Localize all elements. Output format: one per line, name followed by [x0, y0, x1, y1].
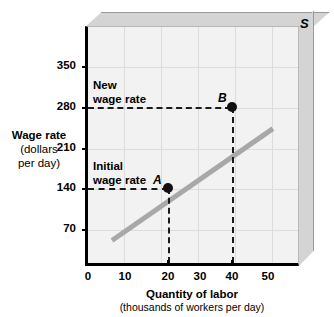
x-tick-mark — [167, 260, 169, 266]
y-tick-mark — [82, 229, 88, 231]
gridline-vertical — [272, 27, 273, 263]
guide-initial-wage-horizontal — [88, 188, 168, 190]
plot-area — [85, 26, 299, 266]
annotation-new-wage-rate: New wage rate — [93, 78, 146, 106]
annotation-initial-wage-line1: Initial — [93, 159, 146, 173]
x-tick-label-text: 0 — [68, 270, 108, 282]
x-tick-label: 50 — [248, 270, 288, 282]
y-tick-label-text: 280 — [36, 100, 76, 112]
x-tick-label-text: 10 — [105, 270, 145, 282]
y-tick-label: 140 — [36, 181, 76, 195]
box-top-face — [85, 12, 330, 27]
annotation-initial-wage-line2: wage rate — [93, 173, 146, 187]
y-tick-label: 350 — [36, 59, 76, 73]
data-point-b-label: B — [218, 91, 227, 105]
y-axis-title-line2: (dollars — [2, 142, 76, 156]
annotation-initial-wage-rate: Initial wage rate — [93, 159, 146, 187]
guide-quantity-40-vertical — [232, 107, 234, 263]
x-tick-label-text: 40 — [212, 270, 252, 282]
y-tick-mark — [82, 188, 88, 190]
x-tick-label-text: 50 — [248, 270, 288, 282]
x-tick-label: 10 — [105, 270, 145, 282]
y-axis-title: Wage rate (dollars per day) — [2, 128, 76, 170]
x-tick-label: 40 — [212, 270, 252, 282]
guide-quantity-20-vertical — [168, 188, 170, 263]
box-right-face — [299, 10, 314, 266]
data-point-a-label: A — [153, 173, 162, 187]
gridline-vertical — [161, 27, 162, 263]
x-tick-label: 0 — [68, 270, 108, 282]
y-tick-label-text: 350 — [36, 59, 76, 71]
y-tick-mark — [82, 66, 88, 68]
x-axis-title: Quantity of labor (thousands of workers … — [85, 288, 299, 314]
y-tick-label-text: 70 — [36, 222, 76, 234]
y-tick-label: 70 — [36, 222, 76, 236]
gridline-vertical — [198, 27, 199, 263]
gridline-horizontal — [88, 67, 298, 68]
data-point-a — [163, 183, 173, 193]
y-axis-title-line3: per day) — [2, 156, 76, 170]
y-tick-label-text: 140 — [36, 181, 76, 193]
x-axis-title-line2: (thousands of workers per day) — [85, 301, 299, 314]
data-point-b — [227, 102, 237, 112]
curve-label-s: S — [300, 16, 309, 31]
x-axis-title-line1: Quantity of labor — [85, 288, 299, 301]
gridline-vertical — [235, 27, 236, 263]
annotation-new-wage-line1: New — [93, 78, 146, 92]
y-tick-mark — [82, 107, 88, 109]
gridline-horizontal — [88, 149, 298, 150]
chart-figure: S A B New wage rate Initial wage rate 35… — [0, 0, 334, 317]
y-tick-mark — [82, 148, 88, 150]
annotation-new-wage-line2: wage rate — [93, 92, 146, 106]
x-tick-mark — [231, 260, 233, 266]
y-tick-label: 280 — [36, 100, 76, 114]
guide-new-wage-horizontal — [88, 107, 231, 109]
y-axis-title-line1: Wage rate — [2, 128, 76, 142]
